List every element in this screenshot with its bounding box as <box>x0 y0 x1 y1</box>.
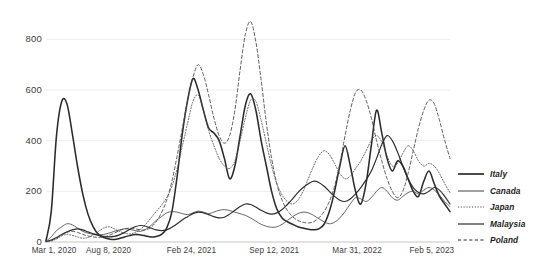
x-tick-label: Aug 8, 2020 <box>86 246 131 255</box>
y-tick-label: 600 <box>2 84 42 95</box>
x-axis-labels: Mar 1, 2020Aug 8, 2020Feb 24, 2021Sep 12… <box>0 246 460 264</box>
legend-swatch-canada <box>458 187 484 195</box>
line-chart-svg <box>46 14 450 242</box>
legend-item-malaysia[interactable]: Malaysia <box>458 216 538 233</box>
series-line-canada <box>46 188 450 242</box>
legend-item-poland[interactable]: Poland <box>458 232 538 249</box>
legend-label: Japan <box>490 202 514 212</box>
series-line-japan <box>46 95 450 242</box>
series-line-malaysia <box>46 136 450 242</box>
legend-item-canada[interactable]: Canada <box>458 183 538 200</box>
plot-area <box>46 14 450 242</box>
x-tick-label: Feb 24, 2021 <box>167 246 216 255</box>
legend-item-japan[interactable]: Japan <box>458 199 538 216</box>
y-tick-label: 800 <box>2 33 42 44</box>
chart-legend: ItalyCanadaJapanMalaysiaPoland <box>458 166 538 249</box>
x-tick-label: Sep 12, 2021 <box>249 246 299 255</box>
legend-label: Canada <box>490 186 521 196</box>
legend-item-italy[interactable]: Italy <box>458 166 538 183</box>
series-line-poland <box>46 21 450 241</box>
legend-swatch-malaysia <box>458 220 484 228</box>
legend-swatch-japan <box>458 203 484 211</box>
y-tick-label: 200 <box>2 185 42 196</box>
legend-swatch-italy <box>458 170 484 178</box>
chart-container: 0200400600800 Mar 1, 2020Aug 8, 2020Feb … <box>0 0 539 270</box>
x-tick-label: Mar 31, 2022 <box>332 246 381 255</box>
legend-swatch-poland <box>458 236 484 244</box>
legend-label: Italy <box>490 169 507 179</box>
x-tick-label: Mar 1, 2020 <box>32 246 77 255</box>
legend-label: Malaysia <box>490 219 525 229</box>
y-tick-label: 400 <box>2 135 42 146</box>
y-axis-labels: 0200400600800 <box>0 0 42 270</box>
x-tick-label: Feb 5, 2023 <box>409 246 454 255</box>
legend-label: Poland <box>490 235 518 245</box>
